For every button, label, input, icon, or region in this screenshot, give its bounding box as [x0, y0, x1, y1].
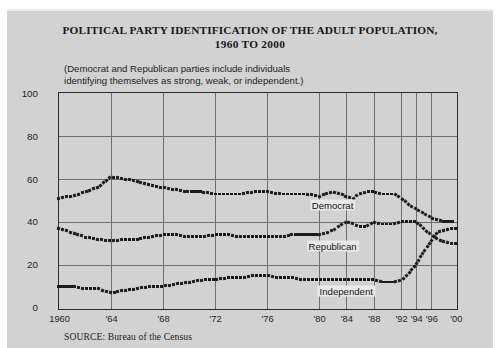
series-marker-democrat	[190, 190, 193, 193]
series-marker-independent	[187, 280, 191, 283]
series-marker-independent	[355, 278, 358, 281]
series-marker-independent	[152, 285, 155, 288]
source-note: SOURCE: Bureau of the Census	[64, 331, 192, 342]
series-marker-republican	[310, 233, 313, 236]
series-marker-democrat	[120, 177, 124, 180]
series-marker-independent	[164, 284, 168, 287]
series-marker-republican	[100, 238, 104, 241]
series-marker-democrat	[378, 192, 382, 196]
x-axis-tick-00: '00	[450, 314, 462, 324]
series-marker-republican	[290, 233, 294, 236]
x-axis-tick-64: '64	[106, 314, 118, 324]
series-marker-republican	[207, 234, 211, 237]
series-marker-republican	[203, 235, 207, 238]
plot-area: DemocratRepublicanIndependent	[58, 92, 458, 310]
series-marker-independent	[401, 276, 405, 280]
series-marker-republican	[119, 238, 123, 241]
series-marker-independent	[299, 277, 303, 280]
series-marker-republican	[227, 233, 231, 236]
series-marker-republican	[231, 234, 235, 237]
x-axis-tick-72: '72	[209, 314, 221, 324]
series-marker-independent	[195, 279, 199, 282]
y-axis-tick-100: 100	[0, 88, 38, 99]
x-axis-tick-96: '96	[426, 314, 438, 324]
series-marker-democrat	[446, 220, 449, 223]
series-marker-democrat	[282, 193, 285, 196]
figure-page: POLITICAL PARTY IDENTIFICATION OF THE AD…	[0, 0, 497, 348]
series-marker-democrat	[124, 177, 128, 180]
series-marker-republican	[255, 235, 258, 238]
series-marker-democrat	[310, 193, 314, 196]
series-marker-independent	[251, 274, 255, 277]
series-marker-republican	[219, 233, 222, 236]
x-axis-tick-76: '76	[261, 314, 273, 324]
series-marker-republican	[251, 235, 254, 238]
series-marker-independent	[323, 278, 326, 281]
series-marker-democrat	[254, 190, 257, 193]
series-marker-democrat	[286, 193, 289, 196]
series-marker-democrat	[151, 184, 155, 187]
series-marker-independent	[231, 276, 234, 279]
series-marker-democrat	[278, 192, 282, 195]
series-marker-democrat	[128, 178, 132, 181]
series-marker-independent	[315, 278, 318, 281]
gridline-vertical	[416, 93, 417, 309]
series-marker-democrat	[250, 190, 254, 193]
series-marker-republican	[199, 235, 202, 238]
series-marker-independent	[351, 278, 354, 281]
series-marker-independent	[235, 276, 238, 279]
chart-title-line1: POLITICAL PARTY IDENTIFICATION OF THE AD…	[7, 23, 493, 37]
series-marker-independent	[176, 282, 180, 285]
series-marker-independent	[335, 278, 338, 281]
series-marker-democrat	[218, 193, 221, 196]
series-marker-democrat	[170, 187, 174, 190]
series-marker-republican	[397, 221, 401, 225]
series-marker-democrat	[222, 193, 225, 196]
series-label-republican: Republican	[307, 240, 359, 251]
series-marker-republican	[409, 220, 412, 223]
series-marker-democrat	[450, 220, 453, 223]
series-marker-independent	[57, 285, 60, 288]
series-marker-independent	[204, 278, 207, 281]
series-marker-independent	[291, 276, 294, 279]
series-marker-republican	[235, 234, 239, 237]
gridline-vertical	[374, 93, 375, 309]
series-marker-republican	[108, 239, 112, 242]
gridline-vertical	[215, 93, 216, 309]
series-marker-democrat	[186, 190, 190, 193]
x-axis-tick-1960: 1960	[49, 314, 70, 324]
series-marker-republican	[333, 227, 337, 231]
series-marker-independent	[331, 278, 334, 281]
chart-subtitle: (Democrat and Republican parties include…	[64, 63, 364, 86]
series-marker-republican	[340, 223, 344, 227]
series-marker-democrat	[210, 192, 214, 195]
series-marker-independent	[339, 278, 342, 281]
series-marker-democrat	[294, 193, 297, 196]
series-marker-republican	[215, 233, 218, 236]
series-marker-republican	[159, 233, 163, 236]
series-marker-democrat	[132, 179, 136, 182]
y-axis-tick-20: 20	[0, 259, 38, 270]
series-marker-independent	[108, 291, 112, 295]
series-marker-republican	[211, 234, 215, 237]
series-marker-independent	[223, 277, 227, 280]
gridline-vertical	[431, 93, 432, 309]
chart-title-line2: 1960 TO 2000	[7, 37, 493, 51]
x-axis-tick-84: '84	[341, 314, 353, 324]
series-marker-republican	[377, 222, 381, 226]
series-marker-republican	[446, 241, 450, 245]
series-marker-republican	[359, 225, 362, 228]
series-marker-democrat	[290, 193, 293, 196]
chart-title: POLITICAL PARTY IDENTIFICATION OF THE AD…	[7, 23, 493, 51]
series-marker-democrat	[167, 187, 171, 190]
y-axis-tick-0: 0	[0, 302, 38, 313]
series-marker-independent	[378, 280, 382, 284]
series-marker-democrat	[358, 192, 362, 196]
y-axis-tick-60: 60	[0, 174, 38, 185]
series-marker-republican	[223, 233, 226, 236]
series-marker-independent	[156, 285, 159, 288]
figure-sheet: POLITICAL PARTY IDENTIFICATION OF THE AD…	[7, 9, 493, 348]
x-axis-tick-94: '94	[411, 314, 423, 324]
series-marker-democrat	[442, 220, 445, 223]
series-marker-republican	[275, 235, 278, 238]
